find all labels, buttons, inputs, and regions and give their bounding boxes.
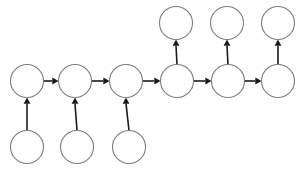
arrowhead-icon — [52, 78, 58, 85]
node-m4[interactable] — [161, 65, 194, 98]
arrowhead-icon — [224, 40, 231, 46]
node-b3[interactable] — [113, 131, 146, 164]
node-b1[interactable] — [11, 131, 44, 164]
edge-m5-to-t2 — [224, 40, 231, 65]
edge-m1-to-m2 — [44, 78, 59, 85]
node-m1[interactable] — [11, 65, 44, 98]
edge-m4-to-t1 — [173, 40, 180, 65]
nodes-layer — [11, 7, 295, 164]
edge-m6-to-t3 — [275, 40, 282, 65]
edge-m3-to-m4 — [143, 78, 161, 85]
edge-m5-to-m6 — [245, 78, 262, 85]
arrowhead-icon — [154, 78, 160, 85]
arrowhead-icon — [173, 40, 180, 46]
arrowhead-icon — [123, 98, 130, 104]
edge-m4-to-m5 — [194, 78, 212, 85]
node-m3[interactable] — [110, 65, 143, 98]
node-chain-diagram — [0, 0, 303, 170]
arrowhead-icon — [275, 40, 282, 46]
arrowhead-icon — [255, 78, 261, 85]
node-t2[interactable] — [211, 7, 244, 40]
node-t3[interactable] — [262, 7, 295, 40]
node-m2[interactable] — [59, 65, 92, 98]
edge-b1-to-m1 — [24, 98, 31, 131]
arrowhead-icon — [24, 98, 31, 104]
node-m6[interactable] — [262, 65, 295, 98]
arrowhead-icon — [103, 78, 109, 85]
node-m5[interactable] — [212, 65, 245, 98]
edge-b3-to-m3 — [123, 98, 130, 131]
edge-m2-to-m3 — [92, 78, 110, 85]
diagram-canvas — [0, 0, 303, 170]
node-t1[interactable] — [160, 7, 193, 40]
node-b2[interactable] — [61, 131, 94, 164]
edge-b2-to-m2 — [72, 98, 79, 131]
arrowhead-icon — [72, 98, 79, 104]
arrowhead-icon — [205, 78, 211, 85]
